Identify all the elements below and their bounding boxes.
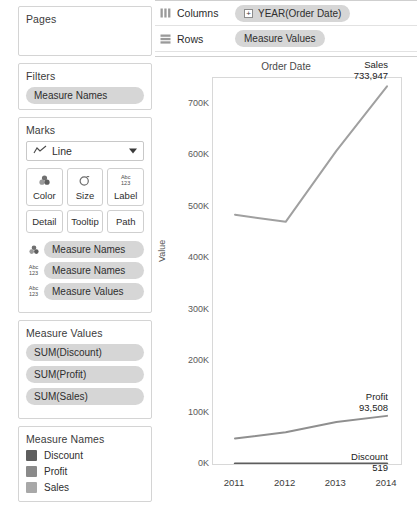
rows-pill-label: Measure Values — [244, 33, 316, 44]
y-axis-tick-label: 100K — [163, 407, 209, 417]
columns-pill-year-order-date[interactable]: + YEAR(Order Date) — [235, 5, 350, 22]
chevron-down-icon[interactable] — [129, 149, 137, 154]
marks-pill-color-measure-names[interactable]: Measure Names — [26, 241, 144, 258]
x-axis-tick-label: 2013 — [325, 477, 346, 488]
marks-button-detail-label: Detail — [32, 216, 56, 227]
series-line-sales — [235, 86, 387, 222]
size-circle-icon — [78, 174, 91, 188]
marks-button-label[interactable]: Abc123 Label — [107, 168, 144, 206]
marks-pill-label-measure-values[interactable]: Abc123 Measure Values — [26, 283, 144, 300]
marks-button-size-label: Size — [76, 190, 94, 201]
marks-button-size[interactable]: Size — [67, 168, 104, 206]
marks-button-label-label: Label — [114, 190, 137, 201]
rows-pill-measure-values[interactable]: Measure Values — [235, 30, 325, 47]
y-axis-tick-label: 600K — [163, 149, 209, 159]
legend-item-label: Sales — [44, 482, 69, 493]
columns-shelf[interactable]: Columns + YEAR(Order Date) — [155, 0, 417, 26]
series-label-name: Discount — [330, 451, 388, 462]
mark-type-dropdown[interactable]: Line — [26, 141, 144, 161]
rows-grid-icon — [159, 33, 171, 44]
y-axis-tick-label: 400K — [163, 252, 209, 262]
line-chart-icon — [33, 145, 47, 157]
measure-value-pill-discount[interactable]: SUM(Discount) — [26, 344, 144, 361]
columns-pill-label: YEAR(Order Date) — [258, 8, 341, 19]
filters-card-title: Filters — [26, 70, 144, 82]
x-axis-tick-label: 2012 — [274, 477, 295, 488]
color-palette-icon — [26, 244, 41, 256]
legend-swatch-icon — [26, 450, 37, 461]
marks-button-tooltip-label: Tooltip — [71, 216, 98, 227]
marks-button-color-label: Color — [33, 190, 56, 201]
pages-card-title: Pages — [26, 13, 144, 25]
measure-value-pill-profit[interactable]: SUM(Profit) — [26, 366, 144, 383]
legend-item-sales[interactable]: Sales — [26, 482, 144, 493]
legend-item-label: Discount — [44, 450, 83, 461]
marks-pill-label[interactable]: Measure Names — [44, 241, 144, 258]
marks-buttons-grid: Color Size Abc123 Label — [26, 168, 144, 233]
marks-pill-label[interactable]: Measure Names — [44, 262, 144, 279]
measure-names-legend-card: Measure Names Discount Profit Sales — [18, 426, 152, 502]
y-axis-tick-label: 500K — [163, 201, 209, 211]
rows-shelf[interactable]: Rows Measure Values — [155, 26, 417, 52]
marks-button-path-label: Path — [116, 216, 136, 227]
y-axis-tick-label: 300K — [163, 304, 209, 314]
filters-card: Filters Measure Names — [18, 63, 152, 110]
y-axis-tick-label: 700K — [163, 98, 209, 108]
series-label-value: 733,947 — [330, 70, 388, 81]
x-axis-tick-label: 2011 — [224, 477, 244, 488]
series-label-discount: Discount519 — [330, 451, 388, 473]
series-label-value: 93,508 — [330, 402, 388, 413]
marks-pill-label[interactable]: Measure Values — [44, 283, 144, 300]
filter-pill-measure-names[interactable]: Measure Names — [26, 87, 144, 104]
marks-button-detail[interactable]: Detail — [26, 210, 63, 233]
series-label-name: Profit — [330, 391, 388, 402]
measure-names-legend-title: Measure Names — [26, 433, 144, 445]
columns-shelf-label: Columns — [177, 7, 235, 19]
abc-123-icon: Abc123 — [26, 286, 41, 297]
chart-view: Order Date Value 0K100K200K300K400K500K6… — [155, 56, 417, 520]
tableau-worksheet: Pages Filters Measure Names Marks Line — [0, 0, 417, 520]
right-panel: Columns + YEAR(Order Date) Rows Measure … — [155, 0, 417, 520]
marks-card: Marks Line — [18, 117, 152, 313]
marks-button-tooltip[interactable]: Tooltip — [67, 210, 104, 233]
rows-shelf-label: Rows — [177, 33, 235, 45]
y-axis-tick-label: 0K — [163, 458, 209, 468]
abc-123-icon: Abc123 — [26, 265, 41, 276]
legend-item-label: Profit — [44, 466, 67, 477]
plus-icon[interactable]: + — [244, 9, 253, 18]
marks-button-color[interactable]: Color — [26, 168, 63, 206]
columns-grid-icon — [159, 8, 171, 19]
marks-button-path[interactable]: Path — [107, 210, 144, 233]
left-sidebar: Pages Filters Measure Names Marks Line — [18, 6, 152, 514]
pages-card: Pages — [18, 6, 152, 56]
measure-values-card-title: Measure Values — [26, 327, 144, 339]
series-label-profit: Profit93,508 — [330, 391, 388, 413]
legend-swatch-icon — [26, 466, 37, 477]
abc-123-icon: Abc123 — [121, 174, 130, 188]
measure-value-pill-sales[interactable]: SUM(Sales) — [26, 388, 144, 405]
y-axis-tick-label: 200K — [163, 355, 209, 365]
series-line-profit — [235, 416, 387, 439]
measure-values-card: Measure Values SUM(Discount) SUM(Profit)… — [18, 320, 152, 419]
marks-card-title: Marks — [26, 124, 144, 136]
series-label-name: Sales — [330, 59, 388, 70]
marks-pill-label-measure-names[interactable]: Abc123 Measure Names — [26, 262, 144, 279]
color-palette-icon — [38, 174, 51, 188]
series-label-value: 519 — [330, 462, 388, 473]
y-axis-ticks: 0K100K200K300K400K500K600K700K — [155, 57, 209, 520]
legend-item-profit[interactable]: Profit — [26, 466, 144, 477]
pages-dropzone[interactable] — [26, 30, 144, 54]
legend-item-discount[interactable]: Discount — [26, 450, 144, 461]
legend-swatch-icon — [26, 482, 37, 493]
series-label-sales: Sales733,947 — [330, 59, 388, 81]
x-axis-tick-label: 2014 — [375, 477, 396, 488]
mark-type-label: Line — [52, 145, 72, 157]
